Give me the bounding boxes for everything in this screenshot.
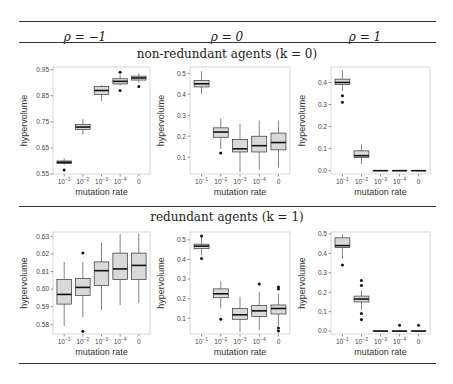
x-axis-label: mutation rate — [75, 187, 128, 197]
outlier-point — [360, 279, 363, 282]
box-body — [57, 279, 72, 304]
x-tick-label: 10−3 — [95, 176, 108, 185]
y-tick-label: 0.5 — [177, 236, 186, 243]
x-tick-label: 10−2 — [355, 336, 368, 345]
x-tick-label: 10−2 — [76, 336, 89, 345]
y-tick-label: 0.1 — [318, 145, 327, 152]
y-tick-label: 0.62 — [36, 250, 49, 257]
x-tick-label: 0 — [417, 178, 421, 185]
x-tick-label: 10−2 — [214, 336, 227, 345]
y-tick-label: 0.4 — [177, 91, 186, 98]
x-tick-label: 0 — [277, 338, 281, 345]
x-axis-label: mutation rate — [75, 347, 128, 357]
x-tick-label: 10−4 — [114, 336, 127, 345]
x-tick-label: 10−2 — [355, 176, 368, 185]
outlier-point — [119, 89, 122, 92]
boxplot-grid: 0.550.650.750.850.9510−110−210−310−40mut… — [0, 0, 453, 384]
box-body — [252, 136, 267, 152]
x-tick-label: 10−4 — [393, 176, 406, 185]
x-tick-label: 10−1 — [195, 336, 208, 345]
y-tick-label: 0.4 — [318, 250, 327, 257]
x-tick-label: 0 — [137, 178, 141, 185]
x-tick-label: 10−4 — [393, 336, 406, 345]
x-tick-label: 10−2 — [214, 176, 227, 185]
y-tick-label: 0.75 — [36, 118, 49, 125]
box-body — [233, 139, 248, 152]
boxplot-panel: 0.10.20.30.40.510−110−210−310−40mutation… — [156, 232, 290, 357]
x-axis-label: mutation rate — [354, 347, 407, 357]
y-tick-label: 0.58 — [36, 321, 49, 328]
outlier-point — [81, 252, 84, 255]
y-tick-label: 0.59 — [36, 303, 49, 310]
x-tick-label: 10−3 — [374, 336, 387, 345]
y-axis-label: hypervolume — [297, 95, 307, 147]
x-tick-label: 10−1 — [58, 336, 71, 345]
x-tick-label: 10−3 — [234, 336, 247, 345]
x-axis-label: mutation rate — [214, 347, 267, 357]
outlier-point — [341, 264, 344, 267]
y-tick-label: 0.3 — [318, 101, 327, 108]
y-tick-label: 0.95 — [36, 66, 49, 73]
y-tick-label: 0.1 — [177, 315, 186, 322]
outlier-point — [200, 257, 203, 260]
box-body — [132, 253, 147, 279]
y-tick-label: 0.2 — [177, 295, 186, 302]
x-tick-label: 10−1 — [195, 176, 208, 185]
x-tick-label: 10−4 — [253, 176, 266, 185]
outlier-point — [258, 282, 261, 285]
outlier-point — [341, 94, 344, 97]
y-tick-label: 0.3 — [318, 269, 327, 276]
x-tick-label: 10−4 — [253, 336, 266, 345]
y-tick-label: 0.2 — [318, 123, 327, 130]
y-tick-label: 0.85 — [36, 92, 49, 99]
outlier-point — [219, 152, 222, 155]
y-axis-label: hypervolume — [156, 257, 166, 309]
box-body — [271, 133, 286, 150]
x-tick-label: 10−1 — [336, 336, 349, 345]
outlier-point — [417, 324, 420, 327]
y-tick-label: 0.1 — [318, 308, 327, 315]
boxplot-panel: 0.10.20.30.40.510−110−210−310−40mutation… — [156, 67, 290, 197]
x-tick-label: 10−3 — [374, 176, 387, 185]
y-tick-label: 0.61 — [36, 268, 49, 275]
y-axis-label: hypervolume — [19, 257, 29, 309]
y-tick-label: 0.2 — [318, 289, 327, 296]
y-tick-label: 0.60 — [36, 285, 49, 292]
y-axis-label: hypervolume — [156, 95, 166, 147]
box-body — [94, 262, 109, 286]
y-tick-label: 0.63 — [36, 233, 49, 240]
outlier-point — [341, 101, 344, 104]
y-tick-label: 0.3 — [177, 275, 186, 282]
y-tick-label: 0.5 — [318, 230, 327, 237]
outlier-point — [360, 318, 363, 321]
outlier-point — [119, 71, 122, 74]
x-tick-label: 0 — [137, 338, 141, 345]
y-tick-label: 0.65 — [36, 144, 49, 151]
outlier-point — [360, 312, 363, 315]
y-tick-label: 0.1 — [177, 154, 186, 161]
outlier-point — [81, 330, 84, 333]
y-axis-label: hypervolume — [19, 95, 29, 147]
boxplot-panel: 0.00.10.20.30.410−110−210−310−40mutation… — [297, 67, 430, 197]
y-tick-label: 0.0 — [318, 167, 327, 174]
box-body — [113, 253, 128, 279]
x-tick-label: 10−3 — [234, 176, 247, 185]
x-tick-label: 10−1 — [336, 176, 349, 185]
y-axis-label: hypervolume — [297, 257, 307, 309]
outlier-point — [63, 169, 66, 172]
outlier-point — [360, 284, 363, 287]
box-body — [233, 309, 248, 320]
y-tick-label: 0.4 — [177, 256, 186, 263]
outlier-point — [398, 324, 401, 327]
outlier-point — [200, 234, 203, 237]
y-tick-label: 0.0 — [318, 327, 327, 334]
y-tick-label: 0.2 — [177, 133, 186, 140]
x-tick-label: 0 — [277, 178, 281, 185]
boxplot-panel: 0.00.10.20.30.40.510−110−210−310−40mutat… — [297, 230, 430, 357]
x-axis-label: mutation rate — [354, 187, 407, 197]
boxplot-panel: 0.550.650.750.850.9510−110−210−310−40mut… — [19, 66, 150, 197]
y-tick-label: 0.55 — [36, 170, 49, 177]
x-tick-label: 10−1 — [58, 176, 71, 185]
box-body — [271, 305, 286, 314]
x-tick-label: 10−3 — [95, 336, 108, 345]
